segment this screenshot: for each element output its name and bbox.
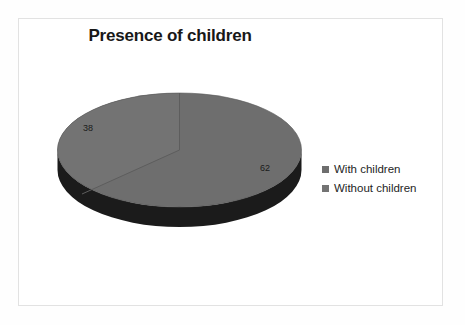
legend-label-without-children: Without children <box>334 182 416 194</box>
data-label-with-children: 62 <box>260 163 270 173</box>
data-label-without-children: 38 <box>83 123 93 133</box>
legend-swatch-icon-without-children <box>322 185 329 192</box>
legend-label-with-children: With children <box>334 163 400 175</box>
legend-item-with-children[interactable]: With children <box>322 163 442 175</box>
chart-legend: With children Without children <box>322 163 442 201</box>
pie-svg <box>57 92 302 232</box>
chart-title: Presence of children <box>0 26 340 46</box>
pie-chart-3d: 38 62 <box>57 92 302 232</box>
chart-canvas: Presence of children 38 62 <box>0 0 465 325</box>
legend-swatch-icon-with-children <box>322 166 329 173</box>
legend-item-without-children[interactable]: Without children <box>322 182 442 194</box>
